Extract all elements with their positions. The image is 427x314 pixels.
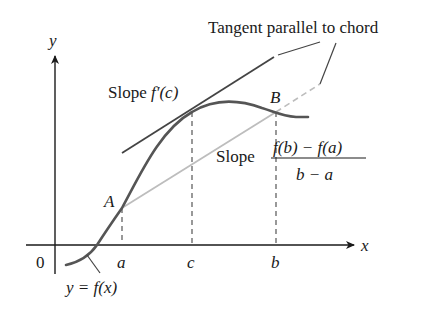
x-axis-label: x (360, 236, 369, 255)
curve-f (66, 102, 308, 265)
callout-leader-chord (320, 43, 336, 84)
curve-label-leader (87, 255, 100, 273)
slope-tangent-prefix: Slope (108, 83, 151, 102)
curve-label: y = f(x) (64, 278, 117, 297)
slope-tangent-label: Slope f′(c) (108, 83, 179, 102)
tick-label-c: c (187, 253, 195, 272)
callout-leader-tangent (278, 42, 320, 55)
origin-label: 0 (36, 253, 45, 272)
tick-label-a: a (117, 253, 126, 272)
slope-chord-denominator: b − a (296, 165, 333, 184)
y-axis-label: y (47, 31, 57, 50)
mvt-diagram: y x 0 a c b A B Tangent parallel to chor… (0, 0, 427, 314)
tick-label-b: b (271, 253, 280, 272)
point-label-a: A (103, 192, 115, 211)
slope-chord-prefix: Slope (216, 147, 255, 166)
point-label-b: B (270, 88, 281, 107)
slope-chord-numerator: f(b) − f(a) (273, 138, 342, 157)
tangent-callout-label: Tangent parallel to chord (208, 18, 379, 37)
slope-tangent-expr: f′(c) (151, 83, 179, 102)
chord-extension (276, 84, 320, 112)
